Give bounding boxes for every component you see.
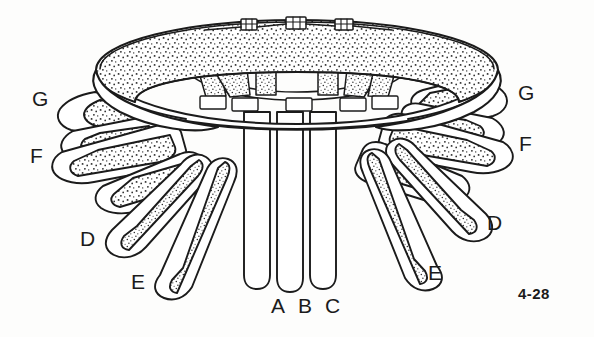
label-c-bottom: C [325, 295, 341, 316]
label-e-right: E [428, 262, 443, 283]
central-columns [244, 112, 336, 292]
column-b [277, 112, 303, 292]
label-a-bottom: A [271, 295, 286, 316]
figure-illustration: G F D E A B C E D F G 4-28 [0, 0, 594, 337]
label-g-left: G [32, 88, 49, 109]
label-g-right: G [518, 82, 535, 103]
label-f-right: F [519, 133, 532, 154]
label-e-left: E [131, 271, 146, 292]
column-c [310, 112, 336, 289]
column-a [244, 112, 270, 289]
figure-number: 4-28 [518, 286, 550, 301]
label-d-right: D [487, 212, 503, 233]
label-d-left: D [80, 228, 96, 249]
label-b-bottom: B [298, 295, 313, 316]
label-f-left: F [30, 145, 43, 166]
line-drawing-canvas [0, 0, 594, 337]
